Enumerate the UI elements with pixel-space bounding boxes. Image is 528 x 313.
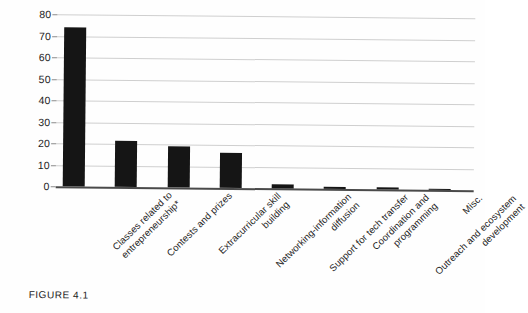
y-tick-label: 20 [38,137,50,149]
y-tick-label: 0 [44,180,50,192]
x-axis-label-line: diffusion [282,199,362,278]
x-axis-labels: Classes related toentrepreneurship*Conte… [55,188,474,284]
bars-group [56,14,476,190]
y-tick-label: 40 [38,94,50,106]
y-tick-label: 80 [39,8,51,20]
bar [376,188,398,190]
bar [63,27,87,186]
bar [220,152,242,188]
chart-plot-area: 01020304050607080 [56,14,476,190]
bar [115,141,137,187]
x-axis-label: Misc. [460,192,484,216]
bar [272,184,294,189]
y-tick-label: 10 [38,159,50,171]
bar [324,187,346,189]
y-tick-label: 50 [39,73,51,85]
bar [167,146,189,187]
bar [429,189,451,190]
y-tick-mark [51,186,56,187]
x-axis-label: Outreach and ecosystemdevelopment [432,193,526,286]
figure-caption: FIGURE 4.1 [29,289,89,301]
y-tick-label: 70 [39,30,51,42]
x-axis-label-line: development [441,201,527,286]
x-axis-label-line: Misc. [460,192,484,216]
y-tick-label: 30 [38,116,50,128]
y-tick-label: 60 [39,51,51,63]
figure-4-1: 01020304050607080 Classes related toentr… [0,0,486,313]
